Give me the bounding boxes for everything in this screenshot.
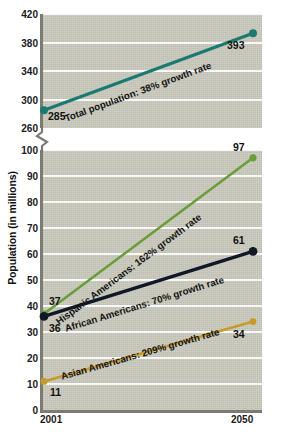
gridline: [42, 357, 262, 359]
gridline: [42, 279, 262, 281]
y-axis-tick-40: 40: [4, 301, 38, 312]
y-axis-tick-30: 30: [4, 327, 38, 338]
value-label-african-americans-end: 61: [233, 234, 245, 246]
gridline: [42, 150, 262, 151]
value-label-hispanic-americans-start: 37: [49, 295, 61, 307]
x-axis-spine: [40, 410, 262, 413]
gridline: [42, 175, 262, 177]
value-label-african-americans-start: 36: [49, 322, 61, 334]
y-axis-tick-20: 20: [4, 353, 38, 364]
x-axis-tick-2001: 2001: [40, 414, 62, 425]
gridline: [42, 99, 262, 101]
y-axis-tick-90: 90: [4, 171, 38, 182]
population-growth-line-chart: Population (in millions) 260300340380420…: [0, 0, 285, 441]
y-axis-tick-300: 300: [4, 94, 38, 105]
y-axis-tick-420: 420: [4, 9, 38, 20]
gridline: [42, 383, 262, 385]
gridline: [42, 227, 262, 229]
y-axis-spine-upper: [40, 14, 43, 128]
x-axis-tick-2050: 2050: [231, 414, 253, 425]
y-axis-tick-70: 70: [4, 223, 38, 234]
y-axis-tick-80: 80: [4, 197, 38, 208]
gridline: [42, 70, 262, 72]
y-axis-tick-60: 60: [4, 249, 38, 260]
value-label-total-population-start: 285: [48, 110, 66, 122]
y-axis-tick-340: 340: [4, 66, 38, 77]
gridline: [42, 331, 262, 333]
value-label-total-population-end: 393: [227, 39, 245, 51]
value-label-hispanic-americans-end: 97: [233, 141, 245, 153]
y-axis-tick-100: 100: [4, 145, 38, 156]
y-axis-tick-50: 50: [4, 275, 38, 286]
value-label-asian-americans-start: 11: [50, 386, 61, 398]
y-axis-spine-lower: [40, 150, 43, 412]
y-axis-tick-0: 0: [4, 405, 38, 416]
value-label-asian-americans-end: 34: [233, 328, 245, 340]
y-axis-tick-260: 260: [4, 123, 38, 134]
gridline: [42, 201, 262, 203]
y-axis-tick-380: 380: [4, 37, 38, 48]
y-axis-tick-labels: 2603003403804200102030405060708090100: [0, 0, 38, 441]
gridline: [42, 14, 262, 15]
y-axis-tick-10: 10: [4, 379, 38, 390]
